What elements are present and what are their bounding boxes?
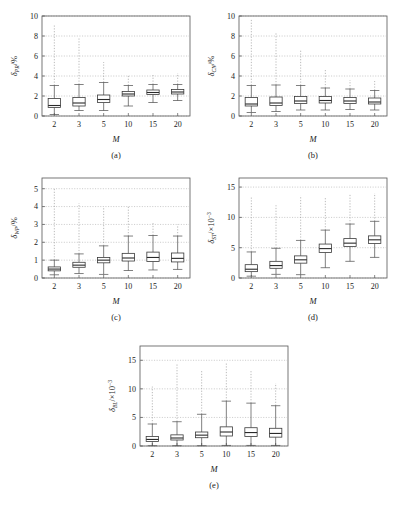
x-tick-label: 20 xyxy=(174,282,182,291)
y-tick-label: 0 xyxy=(34,274,38,283)
x-tick-label: 10 xyxy=(124,282,132,291)
y-tick-label: 0 xyxy=(231,274,235,283)
boxplot-item xyxy=(344,194,356,261)
y-tick-label: 0 xyxy=(132,442,136,451)
panel-caption: (e) xyxy=(209,480,219,490)
gridlines xyxy=(141,360,287,446)
x-axis-label: M xyxy=(111,296,120,306)
boxplot-item xyxy=(122,207,134,271)
svg-text:δST/×10−3: δST/×10−3 xyxy=(206,212,217,244)
gridlines xyxy=(240,187,386,278)
boxplot-item xyxy=(73,38,85,111)
x-tick-label: 5 xyxy=(299,282,303,291)
y-axis-label: δWP/% xyxy=(9,217,20,238)
y-tick-label: 10 xyxy=(128,385,136,394)
boxplot-item xyxy=(319,197,331,268)
panel-c: 012345235101520MδWP/%(c) xyxy=(0,164,197,326)
x-tick-label: 5 xyxy=(299,120,303,129)
svg-text:δPR/%: δPR/% xyxy=(9,56,20,76)
x-tick-label: 20 xyxy=(272,450,280,459)
boxplot-item xyxy=(245,19,257,113)
x-tick-label: 10 xyxy=(321,120,329,129)
y-tick-label: 2 xyxy=(34,238,38,247)
boxplot-item xyxy=(48,24,60,115)
x-tick-label: 3 xyxy=(274,282,278,291)
plot-e: 051015235101520MδBL/×10−3(e) xyxy=(98,332,295,494)
y-tick-label: 8 xyxy=(231,32,235,41)
boxplot-item xyxy=(270,205,282,274)
boxplot-item xyxy=(172,224,184,269)
x-tick-label: 15 xyxy=(149,282,157,291)
y-tick-label: 1 xyxy=(34,256,38,265)
svg-text:δBL/×10−3: δBL/×10−3 xyxy=(107,380,118,412)
panel-caption: (d) xyxy=(308,312,318,322)
panel-caption: (b) xyxy=(308,150,318,160)
plot-frame xyxy=(42,178,190,278)
box-iqr xyxy=(270,97,282,106)
x-tick-label: 2 xyxy=(52,120,56,129)
gridlines xyxy=(43,189,189,278)
plot-frame xyxy=(239,16,387,116)
svg-text:δWP/%: δWP/% xyxy=(9,217,20,238)
y-tick-label: 6 xyxy=(34,52,38,61)
x-axis-label: M xyxy=(308,134,317,144)
plot-a: 0246810235101520MδPR/%(a) xyxy=(0,2,197,164)
x-axis-label: M xyxy=(111,134,120,144)
panel-e: 051015235101520MδBL/×10−3(e) xyxy=(98,332,295,494)
y-axis-label: δCN/% xyxy=(206,56,217,77)
y-tick-label: 0 xyxy=(34,112,38,121)
x-tick-label: 2 xyxy=(249,282,253,291)
y-tick-label: 4 xyxy=(231,72,235,81)
x-tick-label: 3 xyxy=(77,120,81,129)
box-iqr xyxy=(220,427,232,436)
boxplot-item xyxy=(245,370,257,445)
y-axis-label: δPR/% xyxy=(9,56,20,76)
x-tick-label: 3 xyxy=(175,450,179,459)
x-tick-label: 20 xyxy=(371,120,379,129)
y-tick-label: 10 xyxy=(227,213,235,222)
gridlines xyxy=(43,16,189,116)
panel-caption: (c) xyxy=(111,312,121,322)
boxplot-item xyxy=(369,81,381,110)
plot-frame xyxy=(239,178,387,278)
panel-d: 051015235101520MδST/×10−3(d) xyxy=(197,164,394,326)
y-tick-label: 15 xyxy=(128,356,136,365)
x-tick-label: 10 xyxy=(321,282,329,291)
boxplot-item xyxy=(295,196,307,275)
y-tick-label: 2 xyxy=(231,92,235,101)
boxplot-item xyxy=(245,196,257,276)
x-tick-label: 2 xyxy=(150,450,154,459)
box-iqr xyxy=(270,428,282,437)
y-tick-label: 15 xyxy=(227,183,235,192)
panel-b: 0246810235101520MδCN/%(b) xyxy=(197,2,394,164)
plot-c: 012345235101520MδWP/%(c) xyxy=(0,164,197,326)
x-tick-label: 10 xyxy=(124,120,132,129)
y-tick-label: 5 xyxy=(34,185,38,194)
x-tick-label: 15 xyxy=(346,282,354,291)
y-tick-label: 8 xyxy=(34,32,38,41)
x-axis-label: M xyxy=(209,464,218,474)
x-tick-label: 3 xyxy=(274,120,278,129)
box-iqr xyxy=(344,239,356,247)
plot-frame xyxy=(42,16,190,116)
boxplot-item xyxy=(270,383,282,445)
y-tick-label: 10 xyxy=(30,12,38,21)
boxplot-item xyxy=(48,189,60,275)
panel-caption: (a) xyxy=(111,150,121,160)
panel-a: 0246810235101520MδPR/%(a) xyxy=(0,2,197,164)
box-iqr xyxy=(295,97,307,104)
y-tick-label: 2 xyxy=(34,92,38,101)
x-tick-label: 20 xyxy=(174,120,182,129)
boxplot-item xyxy=(171,364,183,446)
x-tick-label: 20 xyxy=(371,282,379,291)
svg-text:δCN/%: δCN/% xyxy=(206,56,217,77)
box-iqr xyxy=(98,95,110,103)
x-tick-label: 5 xyxy=(102,120,106,129)
boxplot-figure: 0246810235101520MδPR/%(a) 02468102351015… xyxy=(0,0,394,514)
box-iqr xyxy=(270,261,282,268)
boxplot-item xyxy=(295,50,307,110)
box-iqr xyxy=(147,252,159,261)
y-tick-label: 10 xyxy=(227,12,235,21)
x-axis-label: M xyxy=(308,296,317,306)
x-tick-label: 15 xyxy=(346,120,354,129)
